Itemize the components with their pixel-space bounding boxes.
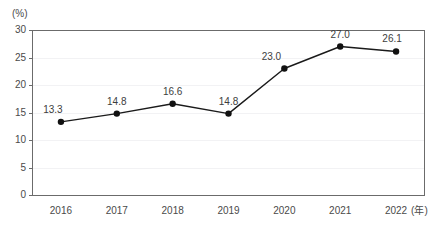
chart-plot-area: 051015202530 201620172018201920202021202… [0,0,440,229]
y-axis-tick-labels: 051015202530 [15,24,27,200]
line-chart: (%) 051015202530 20162017201820192020202… [0,0,440,229]
y-axis-tick-label: 0 [20,189,26,200]
data-point-marker [393,48,399,54]
data-point-label: 16.6 [163,86,183,97]
x-axis-tick-labels: 2016201720182019202020212022 [50,205,408,216]
y-axis-tick-label: 30 [15,24,27,35]
data-point-markers [58,43,400,125]
x-axis-tick-label: 2018 [162,205,185,216]
data-point-marker [169,101,175,107]
x-axis-tick-label: 2020 [273,205,296,216]
y-axis-tick-label: 25 [15,52,27,63]
data-point-label: 27.0 [330,29,350,40]
data-point-label: 26.1 [382,33,402,44]
data-point-label: 14.8 [219,96,239,107]
x-axis-tick-label: 2017 [106,205,129,216]
data-point-label: 23.0 [262,51,282,62]
y-axis-tick-label: 5 [20,162,26,173]
data-point-labels: 13.314.816.614.823.027.026.1 [43,29,402,115]
x-axis-tick-label: 2016 [50,205,73,216]
x-axis-tick-label: 2021 [329,205,352,216]
data-point-label: 14.8 [107,96,127,107]
data-point-label: 13.3 [43,104,63,115]
x-axis-unit-label: (年) [411,204,428,216]
data-point-marker [337,43,343,49]
x-axis-tick-label: 2019 [217,205,240,216]
data-point-marker [114,110,120,116]
y-axis-tick-label: 15 [15,107,27,118]
y-axis-tick-label: 10 [15,134,27,145]
data-point-marker [225,110,231,116]
y-axis-tick-label: 20 [15,79,27,90]
data-point-marker [281,65,287,71]
data-point-marker [58,119,64,125]
x-axis-tick-label: 2022 [385,205,408,216]
